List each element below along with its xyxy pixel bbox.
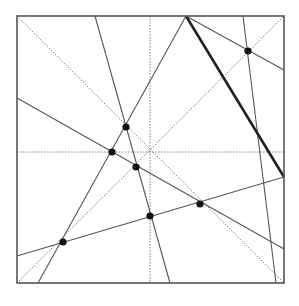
intersection-point [122,123,129,130]
crease-pattern-diagram [0,0,299,306]
intersection-point [59,238,66,245]
intersection-point [132,163,139,170]
thick-crease-lines [186,16,284,177]
thick-crease-line [186,16,284,177]
crease-line [17,98,284,249]
intersection-point [244,47,251,54]
dotted-reference-lines [17,16,284,283]
intersection-point [196,200,203,207]
crease-line [186,16,284,70]
intersection-point [146,212,153,219]
intersection-point [108,148,115,155]
dotted-line [17,16,284,283]
crease-line [95,16,170,283]
